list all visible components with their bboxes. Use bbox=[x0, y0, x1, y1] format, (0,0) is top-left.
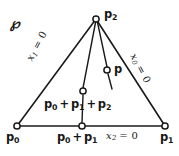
region-label-script-p: ℘ bbox=[10, 16, 20, 30]
midpoint-sum-label: p0+p1 bbox=[57, 132, 97, 145]
vertex-label-p1: p1 bbox=[160, 132, 173, 145]
marker-centroid bbox=[80, 88, 86, 94]
edge-equation-bottom: x2= 0 bbox=[106, 131, 138, 142]
vertex-label-p0: p0 bbox=[6, 132, 19, 145]
barycentric-triangle-figure: ℘ p2 p0 p1 p p0+p1 p0+p1+p2 x1= 0 x0= 0 … bbox=[0, 0, 179, 156]
vertex-label-p2-sub: 2 bbox=[112, 13, 117, 22]
vertex-label-p2: p2 bbox=[104, 9, 117, 22]
point-label-p: p bbox=[114, 64, 122, 76]
vertex-label-p1-base: p bbox=[160, 130, 168, 144]
midpoint-sum-term0: p bbox=[57, 130, 65, 144]
ray-past-point-p bbox=[108, 74, 112, 89]
vertex-label-p2-base: p bbox=[104, 7, 112, 21]
centroid-sum-term1: p bbox=[71, 97, 79, 111]
cevian-to-centroid bbox=[83, 20, 96, 88]
vertex-marker-p1 bbox=[162, 123, 168, 129]
centroid-sum-sub2: 2 bbox=[106, 103, 111, 112]
edge-equation-bottom-eq: = 0 bbox=[116, 130, 138, 141]
midpoint-sum-term1: p bbox=[84, 130, 92, 144]
centroid-sum-term0: p bbox=[44, 97, 52, 111]
midpoint-sum-sub1: 1 bbox=[92, 136, 97, 145]
vertex-label-p0-sub: 0 bbox=[14, 136, 19, 145]
marker-point-p bbox=[104, 67, 110, 73]
midpoint-sum-operator: + bbox=[70, 130, 83, 144]
vertex-marker-p2 bbox=[93, 16, 99, 22]
vertex-label-p1-sub: 1 bbox=[168, 136, 173, 145]
centroid-sum-term2: p bbox=[98, 97, 106, 111]
centroid-sum-label: p0+p1+p2 bbox=[44, 99, 111, 112]
vertex-marker-p0 bbox=[14, 123, 20, 129]
centroid-sum-operator-1: + bbox=[57, 97, 70, 111]
marker-midpoint-01 bbox=[79, 123, 85, 129]
centroid-sum-operator-2: + bbox=[84, 97, 97, 111]
vertex-label-p0-base: p bbox=[6, 130, 14, 144]
